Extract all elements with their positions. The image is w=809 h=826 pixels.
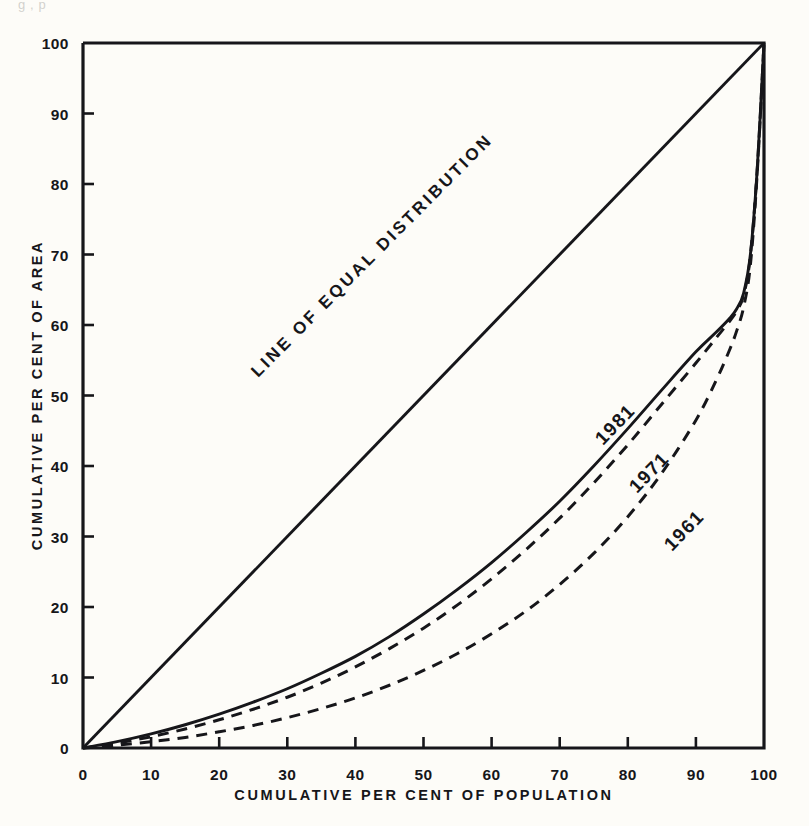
x-axis-tick-labels: 0102030405060708090100 <box>78 766 777 783</box>
x-tick-label-20: 20 <box>210 766 228 783</box>
y-axis-tick-labels: 0102030405060708090100 <box>42 35 69 757</box>
y-tick-label-60: 60 <box>51 317 69 334</box>
y-tick-label-30: 30 <box>51 529 69 546</box>
y-tick-label-20: 20 <box>51 599 69 616</box>
curve-line-of-equal-distribution <box>83 43 764 748</box>
annotation-1971: 1971 <box>625 448 673 497</box>
chart-svg: 0102030405060708090100 01020304050607080… <box>0 0 809 826</box>
y-axis-ticks <box>83 114 94 678</box>
y-tick-label-0: 0 <box>60 740 69 757</box>
annotation-line-of-equal-distribution: LINE OF EQUAL DISTRIBUTION <box>247 130 496 381</box>
lorenz-curve-figure: 0102030405060708090100 01020304050607080… <box>0 0 809 826</box>
data-curves <box>83 43 764 748</box>
x-tick-label-90: 90 <box>687 766 705 783</box>
y-axis-title: CUMULATIVE PER CENT OF AREA <box>29 240 45 550</box>
y-tick-label-90: 90 <box>51 106 69 123</box>
x-tick-label-30: 30 <box>278 766 296 783</box>
x-tick-label-40: 40 <box>346 766 364 783</box>
y-tick-label-10: 10 <box>51 670 69 687</box>
y-tick-label-80: 80 <box>51 176 69 193</box>
x-tick-label-60: 60 <box>482 766 500 783</box>
x-tick-label-10: 10 <box>142 766 160 783</box>
y-tick-label-50: 50 <box>51 388 69 405</box>
x-tick-label-70: 70 <box>551 766 569 783</box>
x-axis-title: CUMULATIVE PER CENT OF POPULATION <box>234 787 613 803</box>
x-tick-label-80: 80 <box>619 766 637 783</box>
x-axis-ticks <box>151 737 696 748</box>
x-tick-label-0: 0 <box>78 766 87 783</box>
y-tick-label-100: 100 <box>42 35 69 52</box>
x-tick-label-50: 50 <box>414 766 432 783</box>
annotation-1961: 1961 <box>660 506 708 555</box>
y-tick-label-70: 70 <box>51 247 69 264</box>
x-tick-label-100: 100 <box>750 766 777 783</box>
y-tick-label-40: 40 <box>51 458 69 475</box>
